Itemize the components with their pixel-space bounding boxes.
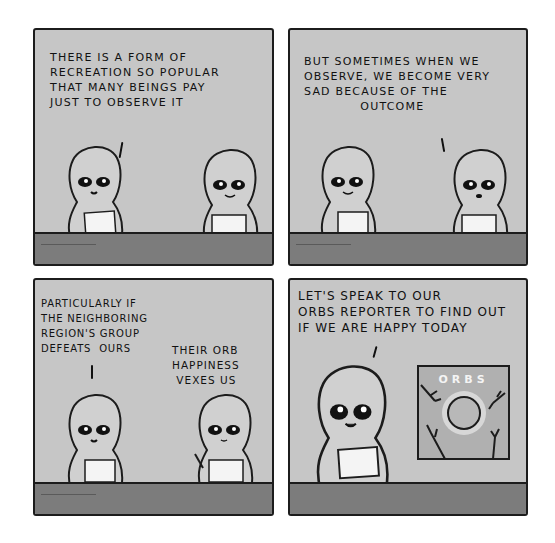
comic-panel-1: THERE IS A FORM OF RECREATION SO POPULAR… <box>33 28 274 266</box>
speech-tail <box>372 346 377 358</box>
desk <box>35 482 272 514</box>
caption-text: BUT SOMETIMES WHEN WE OBSERVE, WE BECOME… <box>304 54 490 114</box>
desk <box>290 482 526 514</box>
desk-line <box>41 244 96 245</box>
caption-text: THERE IS A FORM OF RECREATION SO POPULAR… <box>50 50 220 110</box>
desk <box>290 232 526 264</box>
caption-text-left: PARTICULARLY IF THE NEIGHBORING REGION'S… <box>41 296 148 356</box>
alien-left <box>308 142 388 242</box>
caption-text-right: THEIR ORB HAPPINESS VEXES US <box>172 343 240 388</box>
comic-panel-4: LET'S SPEAK TO OUR ORBS REPORTER TO FIND… <box>288 278 528 516</box>
alien-left <box>55 142 135 242</box>
speech-tail <box>91 365 93 379</box>
comic-panel-2: BUT SOMETIMES WHEN WE OBSERVE, WE BECOME… <box>288 28 528 266</box>
alien-right-pointing <box>185 390 265 490</box>
orb-icon <box>417 365 510 460</box>
alien-left <box>55 390 135 490</box>
alien-reporter <box>302 360 402 490</box>
orbs-news-screen: ORBS <box>417 365 510 460</box>
desk <box>35 232 272 264</box>
alien-right <box>440 145 520 245</box>
caption-text: LET'S SPEAK TO OUR ORBS REPORTER TO FIND… <box>298 288 506 336</box>
desk-line <box>296 244 351 245</box>
desk-line <box>41 494 96 495</box>
comic-panel-3: PARTICULARLY IF THE NEIGHBORING REGION'S… <box>33 278 274 516</box>
alien-right <box>190 145 270 245</box>
